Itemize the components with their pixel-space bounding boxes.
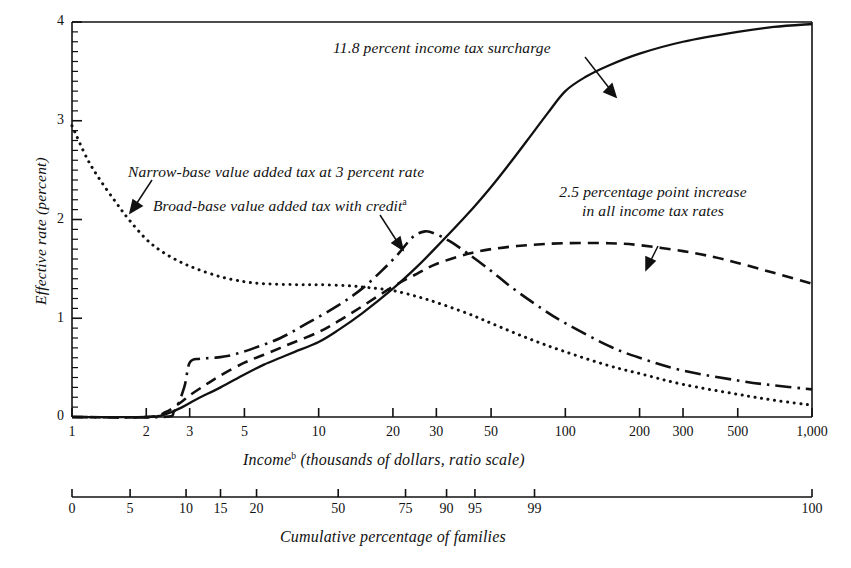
annotation-broad-base-vat-text: Broad-base value added tax with credit bbox=[153, 197, 402, 214]
cumulative-tick-label: 99 bbox=[505, 501, 565, 517]
x-tick-label: 100 bbox=[535, 424, 595, 440]
leader-surcharge-head bbox=[604, 84, 616, 97]
x-tick-label: 30 bbox=[406, 424, 466, 440]
y-tick-label-2: 2 bbox=[46, 211, 64, 227]
leader-broad-base-head bbox=[392, 237, 403, 250]
cumulative-tick-label: 50 bbox=[308, 501, 368, 517]
cumulative-tick-label: 100 bbox=[782, 501, 842, 517]
leader-rate-increase-head bbox=[646, 257, 655, 270]
y-tick-label-0: 0 bbox=[46, 408, 64, 424]
x-axis-title-rest: (thousands of dollars, ratio scale) bbox=[296, 451, 525, 468]
x-tick-label: 300 bbox=[653, 424, 713, 440]
x-tick-label: 1 bbox=[42, 424, 102, 440]
cumulative-tick-label: 20 bbox=[227, 501, 287, 517]
x-axis-title: Incomeb (thousands of dollars, ratio sca… bbox=[243, 451, 525, 469]
y-axis-title: Effective rate (percent) bbox=[32, 157, 50, 305]
cumulative-percentage-axis bbox=[72, 489, 812, 497]
x-tick-label: 1,000 bbox=[782, 424, 842, 440]
figure-effective-tax-rate-chart: Effective rate (percent) 4 3 2 1 0 bbox=[0, 0, 851, 568]
annotation-income-tax-surcharge: 11.8 percent income tax surcharge bbox=[333, 38, 551, 57]
y-tick-label-3: 3 bbox=[46, 112, 64, 128]
x-tick-label: 500 bbox=[708, 424, 768, 440]
leader-narrow-base-head bbox=[130, 200, 142, 213]
annotation-rate-increase-line1: 2.5 percentage point increase bbox=[513, 182, 793, 201]
y-tick-label-4: 4 bbox=[46, 13, 64, 29]
cumulative-tick-label: 0 bbox=[42, 501, 102, 517]
annotation-narrow-base-vat: Narrow-base value added tax at 3 percent… bbox=[128, 162, 424, 181]
secondary-axis-title: Cumulative percentage of families bbox=[280, 528, 506, 546]
x-axis-title-main: Income bbox=[243, 451, 291, 468]
annotation-broad-base-vat: Broad-base value added tax with credita bbox=[153, 196, 407, 215]
annotation-rate-increase: 2.5 percentage point increase in all inc… bbox=[513, 182, 793, 221]
x-axis-ticks bbox=[72, 408, 812, 417]
annotation-rate-increase-line2: in all income tax rates bbox=[513, 201, 793, 220]
annotation-broad-base-vat-superscript: a bbox=[402, 197, 406, 207]
x-tick-label: 50 bbox=[461, 424, 521, 440]
x-tick-label: 5 bbox=[214, 424, 274, 440]
x-tick-label: 10 bbox=[289, 424, 349, 440]
plot-svg bbox=[0, 0, 851, 568]
cumulative-tick-label: 5 bbox=[100, 501, 160, 517]
series-line-2 bbox=[72, 231, 812, 417]
x-tick-label: 3 bbox=[160, 424, 220, 440]
cumulative-tick-label: 95 bbox=[445, 501, 505, 517]
y-tick-label-1: 1 bbox=[46, 310, 64, 326]
